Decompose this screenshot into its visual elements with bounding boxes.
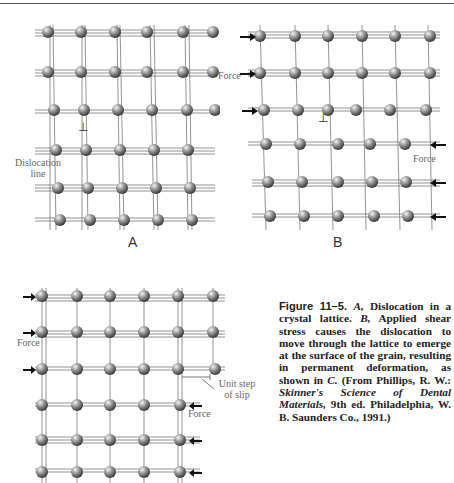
dislocation-line-label: Dislocation line bbox=[8, 157, 68, 179]
caption-part-b: B, bbox=[360, 312, 370, 324]
caption-figure-number: Figure 11–5. bbox=[279, 300, 347, 312]
force-label-c-right: Force bbox=[188, 408, 211, 419]
panel-c-lattice bbox=[20, 283, 230, 483]
force-label-c-left: Force bbox=[17, 337, 40, 348]
dislocation-symbol-b: ⊥ bbox=[318, 113, 328, 124]
dislocation-symbol-a: ⊥ bbox=[78, 122, 88, 133]
figure-caption: Figure 11–5. A, Dislocation in a crystal… bbox=[279, 300, 451, 423]
dislocation-line-text-1: Dislocation bbox=[8, 157, 68, 168]
lattice-a-illustration bbox=[20, 20, 220, 230]
unit-step-text-2: of slip bbox=[212, 389, 262, 400]
dislocation-line-text-2: line bbox=[8, 168, 68, 179]
lattice-c-illustration bbox=[20, 283, 230, 483]
panel-a-lattice bbox=[20, 20, 220, 230]
unit-step-of-slip-label: Unit step of slip bbox=[212, 378, 262, 400]
panel-b-label: B bbox=[333, 234, 342, 250]
lattice-b-illustration bbox=[240, 20, 450, 230]
caption-part-c: C. bbox=[327, 374, 337, 386]
caption-source-prefix: (From Phillips, R. W.: bbox=[338, 374, 451, 386]
caption-part-a: A, bbox=[353, 300, 363, 312]
panel-b-lattice bbox=[240, 20, 450, 230]
force-label-b-right: Force bbox=[413, 153, 436, 164]
unit-step-text-1: Unit step bbox=[212, 378, 262, 389]
panel-a-label: A bbox=[128, 234, 137, 250]
force-label-b-left: Force bbox=[218, 70, 241, 81]
page-rule bbox=[0, 3, 454, 4]
